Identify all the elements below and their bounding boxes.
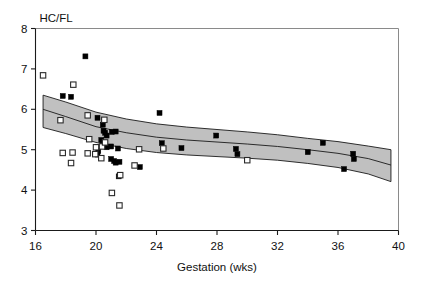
data-point-filled [214, 133, 219, 138]
data-point-filled [95, 115, 100, 120]
data-point-open [86, 137, 91, 142]
y-tick-label: 8 [21, 23, 27, 35]
scatter-plot: 34567816202428323640Gestation (wks)HC/FL [0, 0, 427, 285]
data-point-open [85, 113, 90, 118]
data-point-open [71, 82, 76, 87]
x-tick-label: 28 [211, 240, 224, 252]
x-tick-label: 20 [90, 240, 103, 252]
data-point-filled [104, 133, 109, 138]
data-point-filled [109, 144, 114, 149]
x-tick-label: 32 [271, 240, 284, 252]
data-point-filled [115, 146, 120, 151]
reference-band-layer [43, 95, 391, 181]
data-point-open [117, 203, 122, 208]
data-point-filled [235, 152, 240, 157]
data-point-open [102, 117, 107, 122]
data-point-filled [342, 167, 347, 172]
y-tick-label: 3 [21, 225, 27, 237]
x-tick-label: 16 [29, 240, 42, 252]
data-point-open [118, 172, 123, 177]
data-point-filled [83, 54, 88, 59]
data-point-open [136, 147, 141, 152]
data-point-open [99, 155, 104, 160]
y-tick-label: 4 [21, 184, 28, 196]
data-point-filled [320, 140, 325, 145]
data-point-open [68, 160, 73, 165]
data-point-filled [157, 110, 162, 115]
x-tick-label: 40 [392, 240, 405, 252]
data-point-filled [233, 146, 238, 151]
data-point-open [245, 158, 250, 163]
y-axis-title: HC/FL [40, 12, 74, 24]
x-axis-title: Gestation (wks) [177, 261, 257, 273]
x-tick-label: 36 [332, 240, 345, 252]
data-point-open [70, 150, 75, 155]
data-point-open [85, 151, 90, 156]
data-point-open [40, 73, 45, 78]
normal-range-band [43, 95, 391, 181]
data-point-filled [117, 159, 122, 164]
data-point-open [60, 150, 65, 155]
y-tick-label: 6 [21, 103, 27, 115]
data-point-filled [351, 156, 356, 161]
chart-container: 34567816202428323640Gestation (wks)HC/FL [0, 0, 427, 285]
x-tick-label: 24 [150, 240, 163, 252]
data-point-filled [351, 151, 356, 156]
data-point-filled [179, 146, 184, 151]
y-tick-label: 5 [21, 144, 27, 156]
data-point-filled [60, 93, 65, 98]
data-point-open [58, 118, 63, 123]
data-point-filled [113, 129, 118, 134]
data-point-filled [159, 141, 164, 146]
data-point-filled [305, 150, 310, 155]
data-point-open [102, 140, 107, 145]
y-tick-label: 7 [21, 63, 27, 75]
data-point-open [109, 190, 114, 195]
data-point-filled [137, 165, 142, 170]
data-point-open [93, 145, 98, 150]
data-point-filled [109, 156, 114, 161]
data-point-filled [69, 94, 74, 99]
data-point-open [132, 163, 137, 168]
data-point-open [161, 146, 166, 151]
data-point-open [93, 151, 98, 156]
